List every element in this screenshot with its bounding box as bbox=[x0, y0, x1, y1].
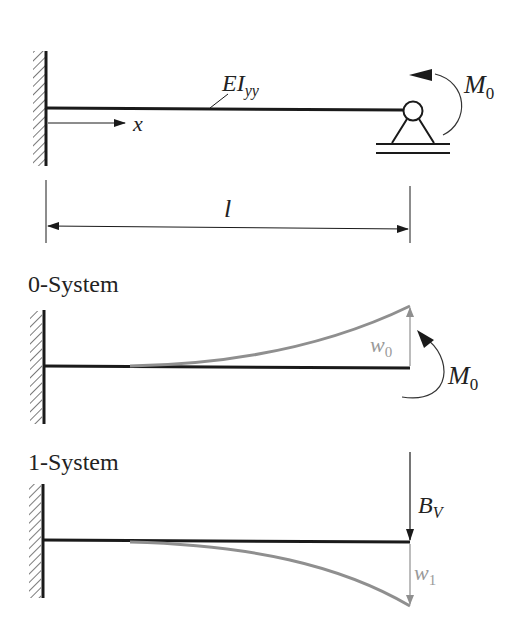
moment-label: M0 bbox=[463, 70, 494, 103]
beam bbox=[44, 366, 410, 368]
beam bbox=[46, 108, 403, 110]
moment-label: M0 bbox=[447, 361, 478, 394]
force-label: BV bbox=[418, 492, 445, 521]
deflection-label: w1 bbox=[414, 560, 436, 588]
deflection-curve bbox=[130, 306, 410, 366]
beam-label-leader bbox=[210, 94, 228, 108]
system-1: 1-System BV w1 bbox=[28, 449, 445, 606]
beam-diagram: EIyy x M0 l 0-System bbox=[0, 0, 524, 634]
fixed-support-icon bbox=[33, 51, 46, 166]
system-1-title: 1-System bbox=[28, 449, 119, 475]
system-0: 0-System w0 M0 bbox=[28, 271, 478, 424]
fixed-support-icon bbox=[29, 484, 43, 598]
deflection-label: w0 bbox=[370, 332, 392, 360]
deflection-curve bbox=[130, 542, 410, 606]
moment-arrow-icon bbox=[402, 330, 444, 398]
top-system: EIyy x M0 l bbox=[33, 51, 494, 243]
beam bbox=[43, 540, 410, 542]
fixed-support-icon bbox=[30, 310, 44, 424]
system-0-title: 0-System bbox=[28, 271, 119, 297]
length-label: l bbox=[224, 194, 231, 223]
beam-stiffness-label: EIyy bbox=[221, 70, 260, 100]
x-axis-label: x bbox=[132, 111, 143, 136]
